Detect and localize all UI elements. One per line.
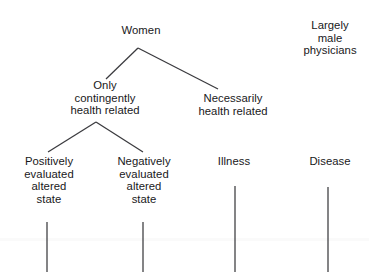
diagram-canvas: WomenLargely male physiciansOnly conting… — [0, 0, 369, 272]
node-positively-evaluated-altered-state: Positively evaluated altered state — [24, 155, 73, 205]
edge-women-to-necessarily — [138, 48, 218, 89]
scan-artifact-band — [0, 238, 369, 241]
node-negatively-evaluated-altered-state: Negatively evaluated altered state — [117, 155, 170, 205]
edge-contingently-to-negatively — [96, 122, 143, 152]
node-illness: Illness — [218, 155, 250, 168]
edge-contingently-to-positively — [48, 122, 96, 152]
edge-women-to-only-contingently — [106, 48, 138, 79]
node-women: Women — [122, 24, 161, 37]
node-necessarily-health-related: Necessarily health related — [198, 92, 267, 117]
node-disease: Disease — [309, 155, 350, 168]
node-only-contingently-health-related: Only contingently health related — [70, 79, 139, 117]
node-largely-male-physicians: Largely male physicians — [303, 19, 356, 57]
